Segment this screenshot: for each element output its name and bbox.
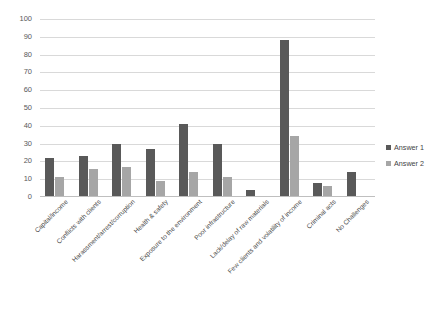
chart-legend: Answer 1Answer 2 xyxy=(386,143,444,175)
y-axis-tick-label: 100 xyxy=(19,15,32,23)
y-axis-tick-label: 0 xyxy=(28,193,32,201)
x-axis-category-label-text: No Challenges xyxy=(335,198,371,234)
bar xyxy=(55,177,64,197)
y-axis-tick-label: 60 xyxy=(24,86,32,94)
x-axis-category-label-text: Lack/delay of raw materials xyxy=(208,198,270,260)
bar-group xyxy=(40,19,74,197)
y-axis-tick-label: 10 xyxy=(24,175,32,183)
square-marker-icon xyxy=(386,161,391,166)
square-marker-icon xyxy=(386,145,391,150)
y-axis-tick-labels: 1009080706050403020100 xyxy=(0,19,36,197)
y-axis-tick-label: 70 xyxy=(24,68,32,76)
y-axis-tick-label: 90 xyxy=(24,33,32,41)
x-axis-category-label-text: Exposure to the environment xyxy=(138,198,203,263)
legend-item-label: Answer 1 xyxy=(394,143,424,152)
bar xyxy=(280,40,289,197)
legend-item-label: Answer 2 xyxy=(394,159,424,168)
x-axis-category-label-text: Health & safety xyxy=(133,198,170,235)
y-axis-tick-label: 40 xyxy=(24,122,32,130)
legend-item[interactable]: Answer 1 xyxy=(386,143,444,152)
legend-item[interactable]: Answer 2 xyxy=(386,159,444,168)
y-axis-tick-label: 80 xyxy=(24,51,32,59)
y-axis-tick-label: 50 xyxy=(24,104,32,112)
y-axis-tick-label: 20 xyxy=(24,157,32,165)
bar-chart: 1009080706050403020100 Capital/incomeCon… xyxy=(0,0,445,316)
bar xyxy=(45,158,54,197)
y-axis-tick-label: 30 xyxy=(24,140,32,148)
x-axis-category-label-text: Capital/income xyxy=(33,198,70,235)
x-axis-category-labels: Capital/incomeConflicts with clientsHara… xyxy=(40,198,375,313)
x-axis-category-label-text: Criminal acts xyxy=(305,198,338,231)
x-axis-category-label-text: Few clients and volatility of income xyxy=(226,198,303,275)
x-axis-category-label-text: Harassment/arrest/corruption xyxy=(70,198,136,264)
